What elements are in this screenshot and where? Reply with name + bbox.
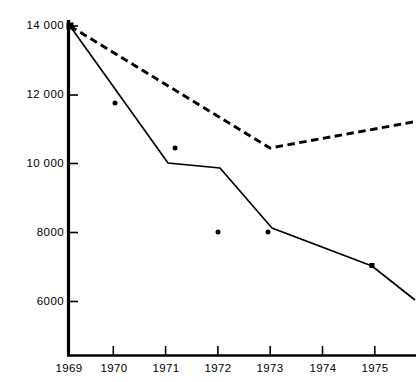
x-tick-label-1973: 1973	[247, 362, 293, 374]
data-point	[370, 263, 375, 268]
data-point	[173, 146, 178, 151]
series-solid-observed	[70, 26, 415, 300]
x-tick-label-1975: 1975	[352, 362, 398, 374]
series-dashed-projection	[70, 26, 413, 148]
y-tick-label-14000: 14 000	[0, 19, 64, 31]
data-point	[216, 230, 221, 235]
y-tick-label-12000: 12 000	[0, 88, 64, 100]
x-tick-label-1969: 1969	[46, 362, 92, 374]
y-tick-label-6000: 6000	[0, 295, 64, 307]
chart-plot-area	[0, 0, 418, 382]
data-point	[266, 230, 271, 235]
x-tick-label-1972: 1972	[195, 362, 241, 374]
data-point	[113, 101, 118, 106]
wildebeest-population-chart: Wildebeest population 14 000 12 000 10 0…	[0, 0, 418, 382]
x-tick-label-1971: 1971	[143, 362, 189, 374]
x-tick-label-1970: 1970	[91, 362, 137, 374]
y-tick-label-8000: 8000	[0, 226, 64, 238]
scatter-points	[113, 101, 375, 269]
x-tick-label-1974: 1974	[300, 362, 346, 374]
origin-marker	[67, 23, 74, 30]
x-axis-ticks	[113, 346, 375, 355]
y-tick-label-10000: 10 000	[0, 157, 64, 169]
